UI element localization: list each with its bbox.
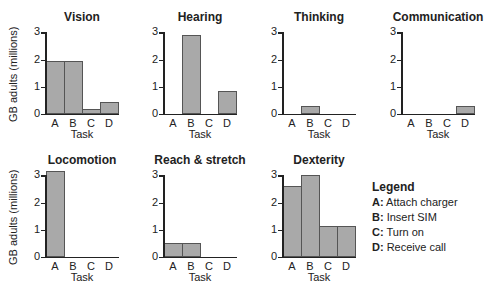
bar-b: [301, 175, 320, 257]
y-tick: [41, 257, 45, 258]
y-tick-label: 0: [263, 251, 277, 262]
y-tick-label: 1: [26, 224, 40, 235]
y-axis: [163, 175, 165, 258]
legend-item-c: C: Turn on: [372, 225, 458, 240]
legend-title: Legend: [372, 180, 458, 195]
y-tick: [159, 87, 163, 88]
plot-area: 0123ABCDTask: [163, 32, 237, 114]
y-tick-label: 1: [263, 81, 277, 92]
x-axis-title: Task: [163, 271, 237, 283]
y-tick: [278, 230, 282, 231]
y-tick-label: 3: [382, 26, 396, 37]
bar-d: [100, 102, 119, 114]
y-tick: [278, 114, 282, 115]
y-tick: [41, 230, 45, 231]
plot-area: 0123ABCDTaskGB adults (millions): [45, 175, 119, 257]
y-tick: [397, 60, 401, 61]
legend-key: A:: [372, 196, 384, 208]
y-tick-label: 2: [263, 197, 277, 208]
y-tick-label: 0: [144, 108, 158, 119]
x-axis: [282, 114, 356, 116]
y-tick: [41, 87, 45, 88]
y-tick-label: 1: [144, 81, 158, 92]
bar-a: [164, 243, 183, 257]
y-tick: [278, 175, 282, 176]
y-tick: [278, 257, 282, 258]
y-tick-label: 2: [26, 54, 40, 65]
x-axis: [45, 257, 119, 259]
legend-key: D:: [372, 241, 384, 253]
plot-area: 0123ABCDTask: [282, 175, 356, 257]
plot-area: 0123ABCDTaskGB adults (millions): [45, 32, 119, 114]
y-tick: [41, 175, 45, 176]
x-axis: [282, 257, 356, 259]
chart-title: Hearing: [153, 10, 247, 24]
bar-a: [283, 186, 302, 257]
chart-title: Locomotion: [35, 153, 129, 167]
y-axis: [401, 32, 403, 115]
chart-title: Dexterity: [272, 153, 366, 167]
plot-area: 0123ABCDTask: [163, 175, 237, 257]
y-tick-label: 0: [144, 251, 158, 262]
bar-d: [337, 226, 356, 257]
y-axis: [282, 32, 284, 115]
x-axis: [401, 114, 475, 116]
y-tick-label: 3: [26, 169, 40, 180]
y-tick: [159, 257, 163, 258]
y-tick-label: 0: [263, 108, 277, 119]
bar-d: [456, 106, 475, 114]
y-axis: [45, 32, 47, 115]
x-axis-title: Task: [45, 271, 119, 283]
y-tick-label: 0: [26, 251, 40, 262]
y-tick-label: 3: [144, 169, 158, 180]
bar-b: [182, 243, 201, 257]
y-tick: [159, 114, 163, 115]
y-tick: [278, 203, 282, 204]
legend-key: C:: [372, 226, 384, 238]
y-axis: [163, 32, 165, 115]
y-axis-title: GB adults (millions): [7, 170, 19, 265]
legend-label: Receive call: [387, 241, 446, 253]
plot-area: 0123ABCDTask: [401, 32, 475, 114]
y-tick: [41, 60, 45, 61]
y-tick-label: 3: [144, 26, 158, 37]
chart-title: Vision: [35, 10, 129, 24]
x-axis-title: Task: [282, 128, 356, 140]
y-tick: [278, 87, 282, 88]
y-tick: [278, 60, 282, 61]
y-tick-label: 1: [26, 81, 40, 92]
y-axis: [282, 175, 284, 258]
y-tick-label: 3: [26, 26, 40, 37]
legend-item-d: D: Receive call: [372, 240, 458, 255]
y-tick-label: 0: [26, 108, 40, 119]
legend: Legend A: Attach charger B: Insert SIM C…: [372, 180, 458, 255]
y-tick: [159, 203, 163, 204]
y-tick: [41, 114, 45, 115]
y-tick-label: 2: [144, 197, 158, 208]
bar-b: [301, 106, 320, 114]
chart-title: Communication: [391, 10, 485, 24]
legend-label: Turn on: [386, 226, 424, 238]
legend-key: B:: [372, 211, 384, 223]
y-tick: [397, 114, 401, 115]
x-axis: [45, 114, 119, 116]
bar-c: [319, 226, 338, 257]
y-tick: [159, 60, 163, 61]
y-tick: [159, 175, 163, 176]
y-tick-label: 1: [144, 224, 158, 235]
x-axis-title: Task: [282, 271, 356, 283]
x-axis: [163, 257, 237, 259]
bar-d: [218, 91, 237, 114]
legend-item-b: B: Insert SIM: [372, 210, 458, 225]
y-axis: [45, 175, 47, 258]
plot-area: 0123ABCDTask: [282, 32, 356, 114]
x-axis-title: Task: [45, 128, 119, 140]
y-tick: [278, 32, 282, 33]
x-axis-title: Task: [401, 128, 475, 140]
y-tick-label: 0: [382, 108, 396, 119]
bar-b: [182, 35, 201, 114]
y-tick: [397, 87, 401, 88]
bar-b: [64, 61, 83, 114]
y-tick: [159, 230, 163, 231]
y-tick-label: 3: [263, 26, 277, 37]
